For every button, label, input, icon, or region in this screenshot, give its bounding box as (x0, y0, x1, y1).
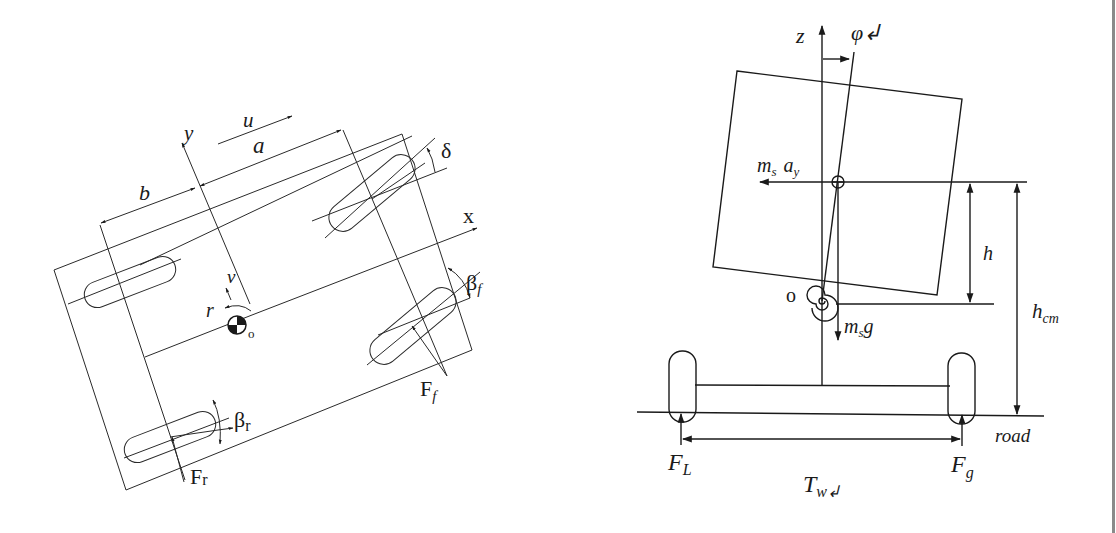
front-right-wheel-plane (367, 272, 480, 365)
label-r: r (206, 299, 214, 321)
label-h: h (983, 242, 993, 264)
label-z: z (795, 23, 805, 48)
label-b: b (139, 180, 150, 205)
label-ms-g: msg (844, 315, 874, 340)
label-u: u (243, 108, 254, 132)
label-y: y (182, 121, 194, 145)
label-beta-r: βr (234, 407, 251, 434)
label-a: a (253, 133, 265, 158)
front-right-ref-line (378, 298, 470, 335)
axle-line (695, 385, 950, 386)
v-arrow (226, 288, 231, 300)
label-phi: φ↲ (851, 20, 881, 45)
label-F-g: Fg (950, 451, 974, 482)
y-axis (182, 143, 250, 304)
label-T-w: Tw↲ (803, 471, 840, 500)
label-F-L: FL (667, 449, 692, 478)
right-roll-diagram: z φ↲ msay h hcm o msg road FL Fg Tw↲ (637, 20, 1059, 500)
label-road: road (995, 425, 1031, 446)
label-beta-f: βf (466, 270, 483, 297)
label-x: x (463, 203, 474, 228)
label-ms-ay: msay (757, 154, 800, 179)
front-left-wheel-plane (325, 138, 435, 238)
left-vehicle-diagram: y u a b δ x v r o βf βr Ff Fr (54, 108, 483, 490)
label-h-cm: hcm (1032, 299, 1059, 326)
center-of-gravity-icon (228, 316, 246, 334)
vehicle-body-outline (54, 134, 472, 490)
label-v: v (227, 266, 236, 287)
delta-arc (427, 148, 435, 172)
yaw-rate-arc (225, 306, 251, 311)
right-edge-bar (1112, 0, 1115, 533)
beta-r-arc (213, 400, 220, 444)
wheel-front-left (323, 149, 421, 237)
force-rear-line (172, 437, 184, 482)
road-line (637, 412, 1044, 416)
label-delta: δ (441, 138, 451, 163)
label-F-f: Ff (420, 376, 438, 404)
wheel-left (669, 351, 696, 422)
wheel-rear-left (81, 253, 180, 312)
label-roll-origin: o (786, 284, 796, 306)
diagram-canvas: y u a b δ x v r o βf βr Ff Fr (0, 0, 1116, 533)
label-origin: o (248, 326, 255, 341)
wheel-right (948, 353, 975, 424)
front-axle-line (343, 130, 447, 376)
dimension-a (200, 130, 341, 186)
label-F-r: Fr (190, 464, 208, 489)
